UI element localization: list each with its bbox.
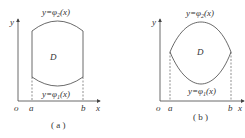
origin-label: o [156, 103, 161, 113]
caption-b: ( b ) [193, 112, 208, 122]
a-label: a [168, 103, 173, 113]
lower-curve-label: y=φ1(x) [41, 89, 70, 100]
origin-label: o [14, 103, 19, 113]
region-label: D [49, 52, 57, 62]
upper-curve-label: y=φ2(x) [185, 8, 214, 19]
figure-a: y=φ2(x) y=φ1(x) D y o a b x ( a ) [9, 7, 100, 130]
x-axis-label: x [95, 103, 100, 113]
lower-curve-label: y=φ1(x) [187, 86, 216, 97]
a-label: a [29, 103, 34, 113]
region-boundary [32, 21, 83, 86]
y-axis-label: y [151, 17, 156, 27]
b-label: b [81, 103, 86, 113]
figure-b: y=φ2(x) y=φ1(x) D y o a b x ( b ) [151, 8, 244, 122]
y-axis-label: y [9, 17, 14, 27]
integration-region-diagrams: y=φ2(x) y=φ1(x) D y o a b x ( a ) y=φ2(x… [0, 0, 245, 138]
upper-curve-label: y=φ2(x) [41, 7, 70, 18]
region-label: D [196, 47, 204, 57]
b-label: b [228, 103, 233, 113]
x-axis-label: x [237, 103, 242, 113]
caption-a: ( a ) [51, 120, 66, 130]
